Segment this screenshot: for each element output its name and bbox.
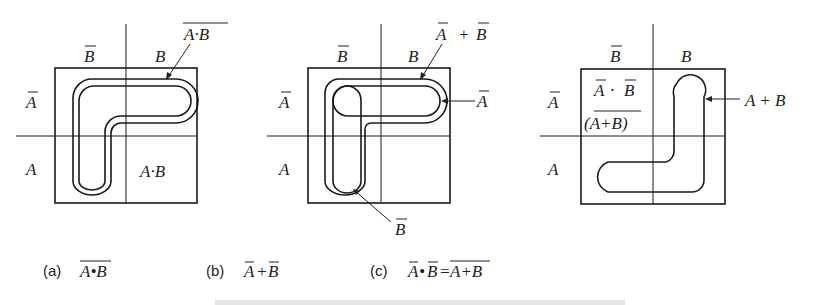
group-loop-inner — [79, 86, 191, 190]
callout-op: + — [458, 25, 469, 44]
cell-op: · — [610, 81, 614, 100]
callout-not-a-and-b: A·B — [183, 25, 210, 44]
caption-op: • — [419, 262, 425, 281]
cell-abar-term: A — [593, 81, 605, 100]
col-label-bbar: B — [610, 47, 621, 66]
col-label-bbar: B — [337, 47, 348, 66]
caption-b: (b) A + B — [206, 262, 279, 281]
caption-abar: A — [407, 262, 419, 281]
callout-bbar: B — [395, 220, 406, 239]
caption-bbar: B — [268, 262, 279, 281]
group-loop-abar — [333, 86, 440, 116]
karnaugh-figure: B B A A A·B A·B B B A A — [0, 0, 817, 305]
cell-not-a-or-b: (A+B) — [584, 114, 628, 133]
arrowhead-icon — [705, 96, 712, 102]
cell-a-and-b: A·B — [139, 162, 166, 181]
caption-eq: = — [439, 262, 450, 281]
col-label-b: B — [681, 47, 692, 66]
callout-arrow — [168, 44, 190, 77]
callout-b-term: B — [476, 25, 487, 44]
caption-expr: A•B — [79, 262, 107, 281]
row-label-a: A — [547, 160, 559, 179]
caption-bbar: B — [427, 262, 438, 281]
caption-a: (a) A•B — [43, 261, 111, 281]
cell-bbar-term: B — [624, 81, 635, 100]
panel-c: B B A A A · B (A+B) A + B — [540, 24, 786, 204]
panel-a: B B A A A·B A·B — [16, 23, 228, 203]
row-label-a: A — [278, 160, 290, 179]
group-loop-outer — [73, 79, 198, 195]
row-label-abar: A — [547, 93, 559, 112]
caption-tag: (a) — [43, 262, 61, 279]
col-label-b: B — [155, 47, 166, 66]
arrowhead-icon — [441, 98, 448, 104]
row-label-abar: A — [25, 93, 37, 112]
callout-a-term: A — [435, 25, 447, 44]
col-label-b: B — [408, 47, 419, 66]
caption-tag: (b) — [206, 262, 224, 279]
cutoff-caption — [215, 300, 625, 305]
row-label-abar: A — [278, 93, 290, 112]
caption-tag: (c) — [370, 262, 388, 279]
group-loop-bbar — [333, 86, 361, 193]
callout-arrow — [355, 191, 391, 222]
row-label-a: A — [25, 160, 37, 179]
col-label-bbar: B — [84, 47, 95, 66]
panel-b: B B A A A + B A B — [267, 23, 489, 239]
group-loop-union-outer — [325, 79, 447, 195]
caption-abar: A — [243, 262, 255, 281]
caption-c: (c) A • B = A+B — [370, 261, 490, 281]
callout-abar: A — [476, 92, 488, 111]
caption-rhs: A+B — [449, 262, 483, 281]
callout-a-or-b: A + B — [744, 91, 786, 110]
caption-op: + — [256, 262, 267, 281]
callout-arrow — [422, 44, 442, 77]
